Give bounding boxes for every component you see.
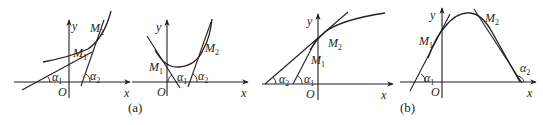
origin-label: O: [58, 85, 67, 99]
angle-alpha1-label: α1: [424, 71, 434, 87]
point-m1-label: M1: [418, 34, 433, 50]
angle-arc-1: [298, 76, 302, 84]
angle-arc-2: [273, 77, 276, 84]
panel-a2: y x O M1 M2 α1 α2 (a): [128, 19, 248, 115]
y-label: y: [429, 8, 436, 22]
point-m1-label: M1: [72, 46, 87, 62]
angle-alpha2-label: α2: [90, 69, 100, 85]
x-label: x: [240, 86, 247, 100]
tangent-convexity-diagram: y x O M1 M2 α1 α2 y x O M1 M2 α1 α2 (a) …: [0, 0, 543, 125]
point-m2-label: M2: [327, 36, 342, 52]
y-label: y: [155, 20, 162, 34]
x-label: x: [526, 86, 533, 100]
caption-b: (b): [400, 100, 415, 115]
origin-label: O: [157, 85, 166, 99]
angle-arc-1: [48, 77, 50, 82]
panel-b2: y x O M1 M2 α1 α2 (b): [400, 8, 536, 115]
angle-alpha1-label: α1: [177, 70, 187, 86]
angle-alpha1-label: α1: [52, 70, 62, 86]
origin-label: O: [306, 87, 315, 101]
angle-arc-2: [193, 74, 197, 82]
curve: [310, 13, 385, 50]
angle-alpha2-label: α2: [520, 61, 530, 77]
caption-a: (a): [128, 100, 142, 115]
origin-label: O: [431, 85, 440, 99]
panel-b1: y x O M1 M2 α2 α1: [262, 12, 393, 102]
point-m2-label: M2: [204, 41, 219, 57]
point-m1-label: M1: [148, 60, 163, 76]
point-m1-label: M1: [310, 53, 325, 69]
panel-a1: y x O M1 M2 α1 α2: [14, 11, 130, 100]
x-label: x: [380, 88, 387, 102]
angle-alpha2-label: α2: [279, 72, 289, 88]
y-label: y: [306, 14, 313, 28]
angle-alpha2-label: α2: [198, 69, 208, 85]
y-label: y: [71, 19, 78, 33]
point-m2-label: M2: [89, 21, 104, 37]
point-m2-label: M2: [484, 11, 499, 27]
angle-arc-1: [168, 75, 172, 82]
x-label: x: [123, 86, 130, 100]
angle-alpha1-label: α1: [304, 72, 314, 88]
